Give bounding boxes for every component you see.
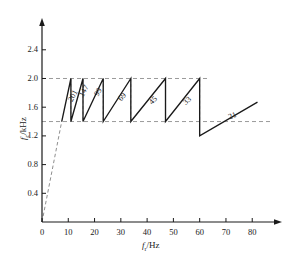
x-tick-label: 30 bbox=[116, 227, 126, 237]
x-tick-label: 10 bbox=[63, 227, 73, 237]
x-tick-label: 0 bbox=[37, 227, 47, 237]
y-axis-title: fc/kHz bbox=[18, 117, 30, 140]
x-axis-title: fr/Hz bbox=[142, 240, 160, 252]
x-tick-label: 20 bbox=[90, 227, 100, 237]
x-axis-arrow bbox=[274, 219, 282, 225]
chart-figure: 01020304050607080 0.40.81.21.62.02.4 201… bbox=[0, 0, 285, 260]
y-axis-arrow bbox=[39, 18, 45, 26]
y-tick-label: 1.6 bbox=[18, 102, 38, 112]
y-tick-label: 2.0 bbox=[18, 73, 38, 83]
x-tick-label: 70 bbox=[221, 227, 231, 237]
y-tick-label: 0.8 bbox=[18, 159, 38, 169]
startup-ramp-line bbox=[42, 122, 62, 222]
x-tick-label: 80 bbox=[247, 227, 257, 237]
y-tick-label: 0.4 bbox=[18, 188, 38, 198]
y-tick-label: 2.4 bbox=[18, 44, 38, 54]
x-tick-label: 50 bbox=[168, 227, 178, 237]
chart-plot-area bbox=[0, 0, 285, 260]
x-tick-label: 60 bbox=[195, 227, 205, 237]
x-tick-label: 40 bbox=[142, 227, 152, 237]
sawtooth-carrier-line bbox=[62, 78, 258, 135]
